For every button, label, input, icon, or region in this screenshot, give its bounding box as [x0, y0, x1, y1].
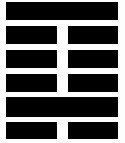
hexagram-line-2-segment-left — [6, 26, 57, 44]
hexagram-line-1 — [6, 2, 118, 20]
hexagram-line-3 — [6, 50, 118, 68]
hexagram-line-5-segment — [6, 97, 118, 117]
hexagram-line-6-gap — [57, 122, 68, 139]
hexagram-line-2-segment-right — [68, 26, 119, 44]
hexagram-line-3-segment-right — [68, 50, 119, 68]
hexagram-figure — [0, 0, 125, 143]
hexagram-line-6 — [6, 122, 118, 139]
hexagram-line-4-segment-left — [6, 74, 57, 92]
hexagram-line-4-segment-right — [68, 74, 119, 92]
hexagram-line-6-segment-left — [6, 122, 57, 139]
hexagram-line-4 — [6, 74, 118, 92]
hexagram-line-6-segment-right — [68, 122, 119, 139]
hexagram-line-3-gap — [57, 50, 68, 68]
hexagram-line-1-segment — [6, 2, 118, 20]
hexagram-line-5 — [6, 97, 118, 117]
hexagram-line-3-segment-left — [6, 50, 57, 68]
hexagram-line-4-gap — [57, 74, 68, 92]
hexagram-line-2 — [6, 26, 118, 44]
hexagram-line-2-gap — [57, 26, 68, 44]
